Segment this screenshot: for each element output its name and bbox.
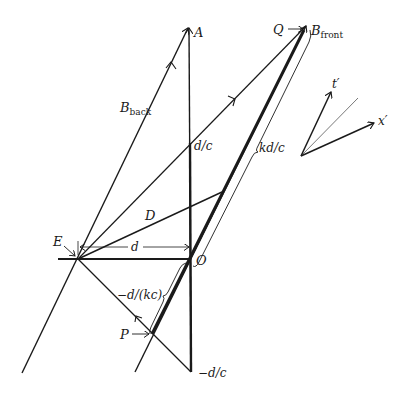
label-minus-d-over-c: −d/c — [198, 366, 227, 380]
label-a: A — [193, 25, 203, 40]
line-e-to-minus-d-over-c — [78, 259, 191, 372]
label-t-prime: t′ — [332, 77, 340, 91]
spacetime-diagram: A Q Bfront Bback d/c kd/c D E d O −d/(kc… — [0, 0, 411, 395]
x-prime-axis — [301, 123, 374, 156]
label-d-over-c: d/c — [194, 139, 213, 153]
label-d-distance: d — [131, 240, 139, 254]
label-p: P — [119, 327, 129, 342]
b-front-main: B — [310, 23, 321, 38]
b-front-thick-segment — [152, 30, 304, 334]
label-d-point: D — [144, 208, 156, 223]
b-back-main: B — [119, 100, 130, 115]
line-e-to-d — [78, 192, 222, 259]
label-e: E — [52, 234, 63, 249]
light-cone-diagonal — [301, 98, 358, 156]
b-front-sub: front — [321, 30, 344, 40]
label-x-prime: x′ — [378, 114, 388, 128]
b-back-worldline — [22, 28, 188, 373]
t-prime-axis — [301, 92, 331, 156]
label-q: Q — [273, 22, 284, 37]
b-back-sub: back — [130, 107, 152, 117]
label-o: O — [196, 253, 207, 268]
label-b-front: Bfront — [310, 23, 343, 40]
label-kd-over-c: kd/c — [259, 141, 285, 155]
label-minus-d-over-kc: −d/(kc) — [117, 288, 162, 302]
e-pointer-arrow — [64, 246, 75, 256]
label-b-back: Bback — [119, 100, 152, 117]
primed-axes-inset — [301, 92, 374, 156]
